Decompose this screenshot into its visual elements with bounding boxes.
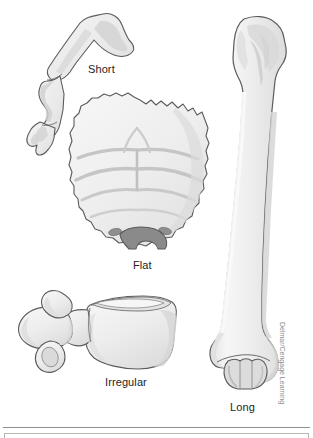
label-long: Long: [230, 401, 255, 414]
flat-bone-illustration: [69, 93, 209, 249]
irregular-bone-illustration: [19, 291, 177, 373]
label-flat: Flat: [133, 259, 152, 272]
long-bone-illustration: [210, 17, 286, 389]
copyright-credit: Delmar/Cengage Learning: [278, 322, 286, 404]
bone-shape-figure: Short Flat Irregular Long Delmar/Cengage…: [0, 0, 313, 438]
bottom-divider-rule: [3, 427, 310, 428]
bottom-frame-edge: [4, 433, 309, 438]
bone-illustrations-svg: [0, 0, 313, 438]
label-irregular: Irregular: [105, 376, 147, 389]
label-short: Short: [88, 63, 115, 76]
